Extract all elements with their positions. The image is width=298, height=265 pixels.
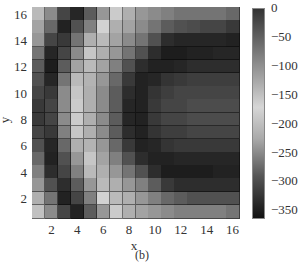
colorbar-tick-label: −100 (271, 58, 298, 74)
heatmap-cell (123, 126, 136, 140)
heatmap-cell (123, 178, 136, 192)
heatmap-cell (161, 33, 174, 47)
heatmap-cell (187, 139, 200, 153)
y-tick-label: 12 (14, 60, 27, 73)
x-tick-label: 12 (174, 223, 187, 236)
heatmap-cell (32, 192, 45, 206)
heatmap-cell (226, 205, 239, 219)
heatmap-cell (148, 165, 161, 179)
heatmap-cell (97, 60, 110, 74)
heatmap-cell (110, 86, 123, 100)
heatmap-cell (213, 60, 226, 74)
heatmap-cell (136, 178, 149, 192)
heatmap-cell (174, 47, 187, 61)
heatmap-cell (84, 47, 97, 61)
heatmap-cell (161, 86, 174, 100)
heatmap-cell (58, 165, 71, 179)
heatmap-cell (213, 139, 226, 153)
heatmap-cell (45, 139, 58, 153)
heatmap-cell (110, 139, 123, 153)
heatmap-cell (32, 205, 45, 219)
heatmap-cell (110, 113, 123, 127)
heatmap-cell (174, 33, 187, 47)
heatmap-cell (200, 178, 213, 192)
heatmap-cell (71, 20, 84, 34)
heatmap-cell (226, 47, 239, 61)
heatmap-cell (213, 113, 226, 127)
heatmap-cell (148, 47, 161, 61)
heatmap-cell (136, 60, 149, 74)
heatmap-cell (226, 139, 239, 153)
heatmap-cell (84, 165, 97, 179)
heatmap-cell (123, 86, 136, 100)
heatmap-cell (136, 126, 149, 140)
heatmap-cell (200, 20, 213, 34)
heatmap-cell (84, 192, 97, 206)
heatmap-cell (136, 192, 149, 206)
heatmap-cell (226, 33, 239, 47)
heatmap-cell (174, 152, 187, 166)
heatmap-cell (148, 86, 161, 100)
heatmap-cell (213, 165, 226, 179)
heatmap-cell (71, 99, 84, 113)
heatmap-cell (148, 113, 161, 127)
heatmap-cell (174, 139, 187, 153)
heatmap-cell (161, 178, 174, 192)
heatmap-cell (200, 33, 213, 47)
heatmap-cell (84, 7, 97, 21)
heatmap-cell (187, 47, 200, 61)
heatmap-cell (32, 73, 45, 87)
heatmap-cell (97, 126, 110, 140)
heatmap-cell (226, 192, 239, 206)
heatmap-cell (136, 33, 149, 47)
heatmap-cell (174, 205, 187, 219)
heatmap-cell (71, 139, 84, 153)
heatmap-cell (97, 47, 110, 61)
heatmap-cell (110, 205, 123, 219)
heatmap-cell (148, 126, 161, 140)
colorbar-tick-label: −200 (271, 116, 298, 132)
heatmap-cell (187, 178, 200, 192)
heatmap-cell (123, 73, 136, 87)
heatmap-cell (148, 139, 161, 153)
heatmap-cell (148, 152, 161, 166)
heatmap-cell (213, 47, 226, 61)
heatmap-cell (110, 60, 123, 74)
heatmap-cell (110, 152, 123, 166)
heatmap-cell (58, 33, 71, 47)
heatmap-cell (187, 86, 200, 100)
heatmap-cell (97, 20, 110, 34)
heatmap-cell (213, 126, 226, 140)
heatmap-cell (45, 73, 58, 87)
heatmap-cell (161, 47, 174, 61)
heatmap-cell (187, 126, 200, 140)
heatmap-cell (45, 7, 58, 21)
heatmap-cell (187, 205, 200, 219)
x-tick-label: 8 (126, 223, 133, 236)
heatmap-cell (58, 20, 71, 34)
heatmap-cell (97, 73, 110, 87)
heatmap-cell (71, 47, 84, 61)
heatmap-cell (200, 152, 213, 166)
heatmap-cell (136, 113, 149, 127)
heatmap-cell (32, 178, 45, 192)
heatmap-cell (213, 192, 226, 206)
heatmap-cell (200, 7, 213, 21)
heatmap-cell (161, 192, 174, 206)
heatmap-cell (32, 152, 45, 166)
heatmap-cell (200, 205, 213, 219)
heatmap-cell (71, 192, 84, 206)
heatmap-cell (97, 113, 110, 127)
heatmap-cell (161, 113, 174, 127)
heatmap-cell (226, 7, 239, 21)
heatmap-cell (32, 33, 45, 47)
heatmap-cell (148, 20, 161, 34)
heatmap-cell (84, 205, 97, 219)
heatmap-cell (226, 165, 239, 179)
heatmap-cell (200, 113, 213, 127)
heatmap-cell (136, 20, 149, 34)
heatmap-cell (97, 7, 110, 21)
heatmap-cell (136, 152, 149, 166)
colorbar-tick-label: −250 (271, 145, 298, 161)
heatmap-cell (187, 60, 200, 74)
